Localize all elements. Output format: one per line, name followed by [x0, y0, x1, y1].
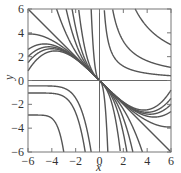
- x-axis-label: x: [95, 160, 102, 173]
- quadrant-three-curve: [28, 93, 85, 152]
- y-axis-label: y: [2, 74, 16, 81]
- y-tick-label: 2: [18, 50, 24, 64]
- x-tick-label: 4: [144, 154, 150, 168]
- quadrant-three-curve: [28, 115, 64, 152]
- x-tick-label: 6: [168, 154, 174, 168]
- x-tick-label: −2: [69, 154, 82, 168]
- x-tick-label: −4: [45, 154, 58, 168]
- y-tick-label: 0: [18, 74, 24, 88]
- x-tick-label: 2: [120, 154, 126, 168]
- chart-plot: −6−4−20246 −6−4−20246 x y: [0, 0, 181, 173]
- y-tick-label: −2: [11, 97, 24, 111]
- hyperbola-curve: [135, 9, 171, 45]
- y-tick-label: −4: [11, 121, 24, 135]
- y-tick-label: 4: [18, 26, 24, 40]
- quadrant-three-curve: [28, 86, 91, 152]
- hyperbola-curve: [113, 9, 171, 67]
- y-tick-label: −6: [11, 145, 24, 159]
- y-tick-label: 6: [18, 2, 24, 16]
